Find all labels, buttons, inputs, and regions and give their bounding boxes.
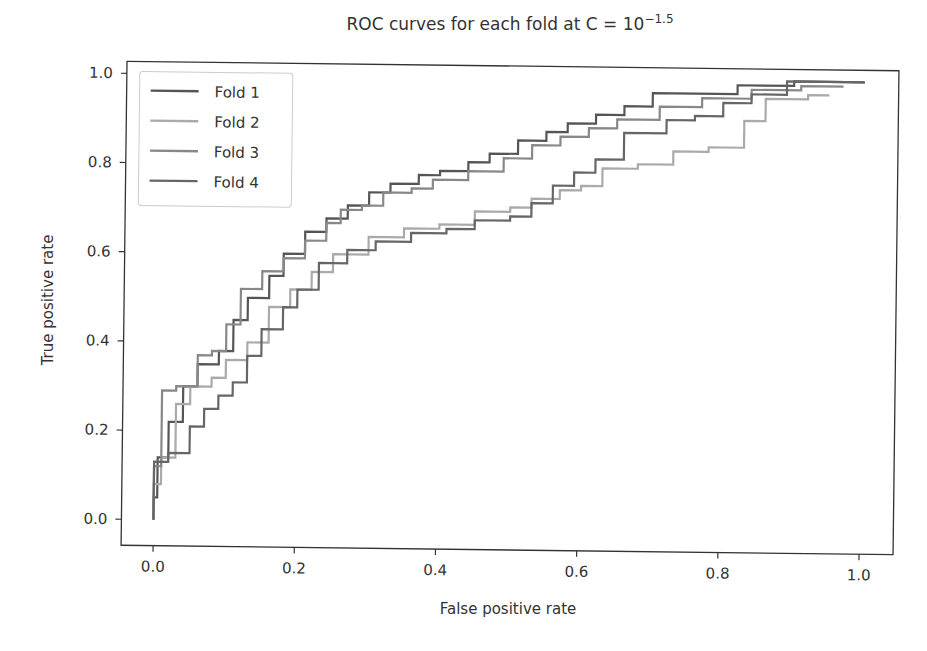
x-tick-label: 0.0	[141, 558, 165, 576]
x-tick-label: 0.8	[706, 564, 730, 582]
y-tick-label: 0.6	[87, 242, 111, 260]
y-tick-label: 1.0	[89, 64, 113, 82]
y-axis-ticks: 0.00.20.40.60.81.0	[83, 64, 127, 528]
legend-label-fold-4: Fold 4	[213, 173, 258, 192]
legend-label-fold-3: Fold 3	[214, 143, 259, 162]
y-tick-label: 0.8	[88, 153, 112, 171]
x-tick-label: 0.6	[564, 563, 588, 581]
x-tick-label: 0.2	[282, 559, 306, 577]
x-axis-label: False positive rate	[440, 600, 577, 618]
y-tick-label: 0.0	[83, 510, 107, 528]
legend-swatch-fold-3	[150, 151, 198, 152]
legend-label-fold-2: Fold 2	[214, 113, 259, 132]
y-tick-label: 0.4	[86, 331, 110, 349]
legend: Fold 1Fold 2Fold 3Fold 4	[138, 71, 293, 207]
x-tick-label: 0.4	[423, 561, 447, 579]
legend-label-fold-1: Fold 1	[215, 83, 260, 102]
legend-swatch-fold-4	[150, 181, 198, 182]
title-exponent: −1.5	[644, 12, 673, 26]
legend-swatch-fold-1	[151, 91, 199, 92]
y-tick-label: 0.2	[85, 421, 109, 439]
chart-title: ROC curves for each fold at C = 10−1.5	[346, 12, 673, 34]
legend-swatch-fold-2	[150, 121, 198, 122]
x-axis-ticks: 0.00.20.40.60.81.0	[141, 546, 871, 585]
y-axis-label: True positive rate	[39, 235, 57, 367]
x-tick-label: 1.0	[847, 566, 871, 584]
roc-chart: ROC curves for each fold at C = 10−1.5 0…	[0, 0, 927, 651]
